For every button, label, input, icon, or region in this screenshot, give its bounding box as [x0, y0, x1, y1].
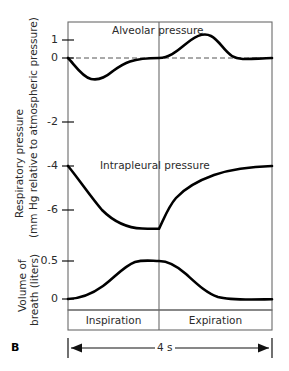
intrapleural-pressure-curve	[68, 166, 272, 229]
tick-label-pressure-0: 0	[38, 52, 58, 63]
tick-label-pressure-1: 1	[38, 34, 58, 45]
breath-volume-curve	[68, 261, 272, 300]
duration-label: 4 s	[155, 342, 175, 353]
plot-frame	[68, 22, 272, 330]
axis-title-volume-line2: breath (liters)	[29, 254, 40, 326]
phase-label-expiration: Expiration	[159, 315, 272, 326]
panel-label: B	[11, 342, 19, 353]
tick-label-volume-0: 0	[38, 293, 58, 304]
axis-title-volume-line1: Volume of	[17, 259, 28, 312]
alveolar-pressure-curve	[68, 35, 272, 80]
axis-title-pressure-line1: Respiratory pressure	[14, 109, 25, 218]
curve-label-intrapleural: Intrapleural pressure	[100, 160, 210, 171]
curve-label-alveolar: Alveolar pressure	[112, 25, 204, 36]
axis-title-pressure-line2: (mm Hg relative to atmospheric pressure)	[28, 17, 39, 238]
respiratory-figure: 1 0 -2 -4 -6 0.5 0 Respiratory pressure …	[0, 0, 289, 371]
phase-label-inspiration: Inspiration	[68, 315, 159, 326]
